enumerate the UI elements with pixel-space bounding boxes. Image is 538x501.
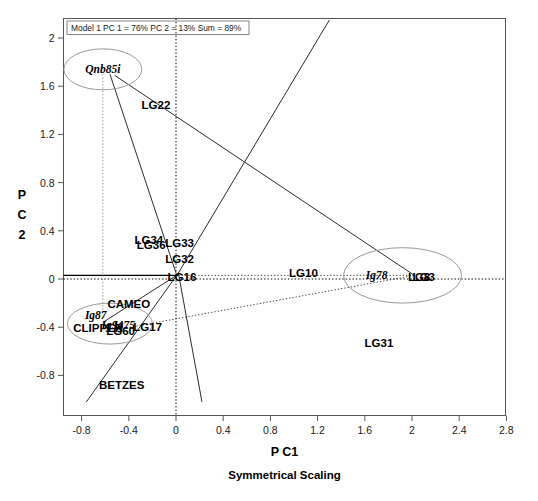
y-tick-label: 0.4 [40,225,55,237]
genotype-label-lg22: LG22 [142,99,171,111]
x-tick-label: 2.8 [499,424,514,436]
y-tick-label: 0.8 [40,177,55,189]
environment-label-ig78: Ig78 [365,269,388,282]
upper-right-line [178,20,329,273]
x-tick-label: 0 [173,424,179,436]
y-tick-label: 1.6 [40,80,55,92]
y-tick-label: -0.8 [36,369,54,381]
genotype-label-lg16: LG16 [168,271,197,283]
genotype-label-lg17: LG17 [133,321,162,333]
genotype-label-lg36: LG36 [137,239,166,251]
genotype-label-betzes: BETZES [99,379,145,391]
genotype-label-lg10: LG10 [289,267,318,279]
environment-label-qnb85i: Qnb85i [85,63,121,75]
y-tick-label: 0 [49,273,55,285]
genotype-label-lg60: LG60 [106,325,135,337]
x-tick-label: 2 [409,424,415,436]
y-axis-title-char: C [17,208,26,222]
y-tick-label: 2 [49,32,55,44]
x-tick-label: 2.4 [452,424,467,436]
model-note-text: Model 1 PC 1 = 76% PC 2 = 13% Sum = 89% [71,23,242,33]
genotype-label-lg31: LG31 [365,337,394,349]
group-ig78-lg8 [344,248,462,303]
y-tick-label: 1.2 [40,128,55,140]
x-tick-label: 1.2 [310,424,325,436]
genotype-label-lg32: LG32 [165,253,194,265]
lower-right-line [178,273,202,402]
x-tick-label: -0.4 [120,424,138,436]
x-tick-label: 1.6 [357,424,372,436]
x-tick-label: -0.8 [73,424,91,436]
genotype-label-cameo: CAMEO [107,298,150,310]
genotype-label-lg33: LG33 [165,237,194,249]
x-axis-title: P C1 [271,445,299,459]
genotype-label-lg3: LG3 [413,271,435,283]
plot-subtitle: Symmetrical Scaling [228,469,341,481]
x-tick-label: 0.4 [216,424,231,436]
y-tick-label: -0.4 [36,321,54,333]
plot-frame [64,19,506,416]
x-tick-label: 0.8 [263,424,278,436]
y-axis-title-char: 2 [19,228,26,242]
y-axis-title-char: P [18,188,26,202]
figure-canvas: Model 1 PC 1 = 76% PC 2 = 13% Sum = 89%-… [0,0,538,501]
pca-biplot: Model 1 PC 1 = 76% PC 2 = 13% Sum = 89%-… [0,0,538,501]
